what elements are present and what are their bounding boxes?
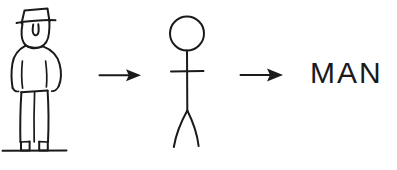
stick-figure [170, 17, 204, 148]
coat-left-icon [12, 46, 26, 88]
stick-left-leg-icon [174, 111, 188, 148]
stick-arms-icon [171, 71, 204, 72]
left-arm-icon [22, 61, 23, 88]
pants-right-outer-icon [48, 91, 49, 142]
coat-hem-left-icon [13, 88, 19, 91]
stick-right-leg-icon [187, 111, 198, 147]
pants-left-outer-icon [20, 92, 21, 142]
abstraction-diagram-canvas: MAN [0, 0, 397, 170]
realistic-man-figure [3, 9, 67, 151]
right-arm-icon [46, 61, 47, 87]
left-shoe-icon [21, 142, 30, 151]
coat-hem-right-icon [52, 86, 59, 91]
stick-head-icon [170, 17, 204, 51]
pants-inseam-icon [34, 92, 35, 142]
arrow-1 [100, 69, 142, 81]
diagram-svg: MAN [0, 0, 397, 170]
right-shoe-icon [39, 142, 48, 151]
arrow-2 [241, 69, 284, 82]
nose-icon [33, 24, 39, 35]
shoulder-line-icon [26, 46, 43, 48]
word-label: MAN [310, 56, 383, 89]
